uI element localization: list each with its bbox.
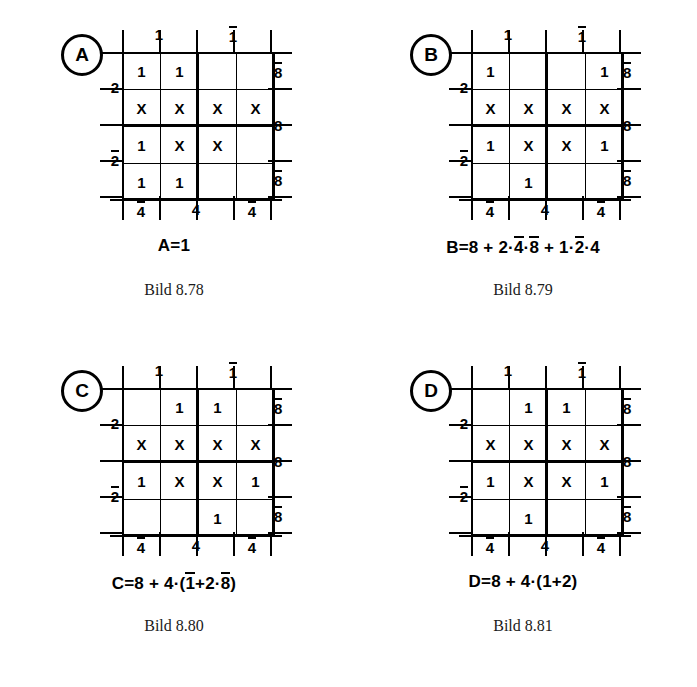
grid-cell[interactable] — [237, 500, 275, 537]
grid-cell[interactable] — [123, 500, 161, 537]
axis-label-right-8-bar-bottom: 8 — [623, 506, 639, 525]
grid-cell[interactable]: 1 — [237, 463, 275, 500]
grid-cell[interactable] — [548, 164, 586, 201]
grid-cell[interactable]: 1 — [199, 389, 237, 426]
grid-cell[interactable] — [237, 389, 275, 426]
axis-label-top-1-bar: 1 — [563, 26, 601, 45]
grid-cell[interactable]: X — [199, 90, 237, 127]
axis-label-right-8-bar-top-text: 8 — [274, 62, 282, 81]
axis-label-top-1-bar-text: 1 — [578, 362, 586, 381]
grid-cell[interactable] — [123, 389, 161, 426]
grid-cell[interactable]: X — [237, 426, 275, 463]
grid-cell[interactable]: 1 — [510, 164, 548, 201]
grid-cell[interactable]: X — [199, 127, 237, 164]
axis-label-right-8: 8 — [623, 453, 639, 470]
axis-label-left-2-text: 2 — [111, 79, 119, 96]
formula-part: 1 — [185, 572, 195, 593]
grid-cell[interactable]: X — [586, 90, 624, 127]
grid-cell[interactable]: X — [123, 426, 161, 463]
axis-label-left-2-text: 2 — [460, 79, 468, 96]
grid-cell[interactable]: 1 — [161, 53, 199, 90]
grid-cell[interactable]: 1 — [510, 389, 548, 426]
axis-label-top-1-bar: 1 — [214, 26, 252, 45]
left-tick-0 — [100, 388, 124, 390]
axis-label-right-8: 8 — [274, 117, 290, 134]
grid-cell[interactable]: X — [510, 90, 548, 127]
grid-cell[interactable] — [161, 500, 199, 537]
grid-cell[interactable]: 1 — [472, 53, 510, 90]
axis-label-top-1-bar-text: 1 — [229, 362, 237, 381]
grid-cell[interactable]: 1 — [161, 389, 199, 426]
grid-cell[interactable]: 1 — [586, 463, 624, 500]
grid-cell[interactable] — [586, 389, 624, 426]
axis-label-top-1-text: 1 — [155, 362, 163, 379]
grid-cell[interactable]: 1 — [472, 127, 510, 164]
grid-cell[interactable] — [548, 53, 586, 90]
grid-cell[interactable] — [199, 53, 237, 90]
grid-cell[interactable] — [237, 127, 275, 164]
axis-label-right-8-bar-bottom-text: 8 — [274, 506, 282, 525]
grid-cell[interactable]: X — [548, 426, 586, 463]
grid-cell[interactable]: 1 — [161, 164, 199, 201]
grid-cell[interactable] — [199, 164, 237, 201]
axis-label-top-1-text: 1 — [504, 26, 512, 43]
grid-cell[interactable]: X — [161, 463, 199, 500]
grid-cell[interactable]: X — [510, 426, 548, 463]
top-tick-0 — [122, 366, 124, 390]
grid-cell[interactable]: 1 — [123, 463, 161, 500]
axis-label-bottom-4-bar-right: 4 — [582, 201, 620, 220]
top-tick-4 — [270, 366, 272, 390]
grid-cell[interactable] — [472, 164, 510, 201]
grid-cell[interactable] — [586, 500, 624, 537]
axis-label-top-1-text: 1 — [504, 362, 512, 379]
grid-cell[interactable] — [548, 500, 586, 537]
grid-row: 11 — [123, 53, 275, 90]
grid-cell[interactable]: X — [199, 463, 237, 500]
grid-cell[interactable] — [472, 389, 510, 426]
grid-cell[interactable]: 1 — [199, 500, 237, 537]
axis-label-bottom-4-text: 4 — [192, 537, 200, 554]
grid-cell[interactable]: X — [586, 426, 624, 463]
grid-cell[interactable]: X — [199, 426, 237, 463]
grid-cell[interactable]: X — [510, 127, 548, 164]
map-badge-c: C — [61, 370, 103, 412]
axis-label-right-8-bar-bottom-text: 8 — [623, 170, 631, 189]
grid-cell[interactable] — [237, 53, 275, 90]
grid-cell[interactable]: X — [548, 463, 586, 500]
axis-label-top-1-bar-text: 1 — [578, 26, 586, 45]
grid-cell[interactable]: X — [161, 90, 199, 127]
grid-cell[interactable]: X — [161, 127, 199, 164]
axis-label-top-1: 1 — [489, 26, 527, 43]
top-tick-4 — [270, 30, 272, 54]
grid-cell[interactable]: 1 — [548, 389, 586, 426]
axis-label-left-2: 2 — [450, 415, 468, 432]
formula-part: 2 — [575, 236, 585, 257]
grid-cell[interactable] — [510, 53, 548, 90]
axis-label-top-1: 1 — [140, 26, 178, 43]
grid-cell[interactable] — [472, 500, 510, 537]
grid-row: XXXX — [472, 426, 624, 463]
grid-cell[interactable]: X — [472, 426, 510, 463]
map-badge-d: D — [410, 370, 452, 412]
grid-cell[interactable]: 1 — [472, 463, 510, 500]
grid-row: XXXX — [472, 90, 624, 127]
grid-cell[interactable]: 1 — [123, 53, 161, 90]
top-tick-0 — [122, 30, 124, 54]
grid-cell[interactable]: X — [510, 463, 548, 500]
axis-label-left-2: 2 — [450, 79, 468, 96]
grid-cell[interactable]: X — [161, 426, 199, 463]
grid-cell[interactable]: X — [548, 90, 586, 127]
grid-cell[interactable]: X — [237, 90, 275, 127]
grid-cell[interactable] — [237, 164, 275, 201]
grid-cell[interactable]: 1 — [123, 164, 161, 201]
axis-label-top-1: 1 — [140, 362, 178, 379]
axis-label-bottom-4-text: 4 — [541, 201, 549, 218]
grid-cell[interactable]: 1 — [123, 127, 161, 164]
grid-cell[interactable]: X — [123, 90, 161, 127]
grid-cell[interactable]: X — [548, 127, 586, 164]
grid-cell[interactable] — [586, 164, 624, 201]
grid-cell[interactable]: 1 — [510, 500, 548, 537]
grid-cell[interactable]: X — [472, 90, 510, 127]
grid-cell[interactable]: 1 — [586, 127, 624, 164]
grid-cell[interactable]: 1 — [586, 53, 624, 90]
